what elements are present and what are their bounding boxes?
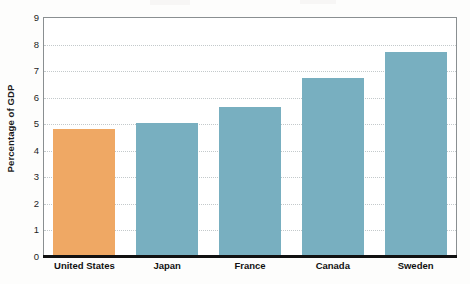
scan-artifact [150,0,190,5]
y-axis-tick-label: 9 [5,12,39,23]
bar-united-states [53,129,115,256]
y-axis-tick-label: 4 [5,144,39,155]
y-axis-tick-label: 5 [5,118,39,129]
bar-sweden [385,52,447,256]
category-label-france: France [209,260,292,271]
bars-group [43,17,457,256]
bar-canada [302,78,364,256]
bar-france [219,107,281,256]
scan-artifact [300,0,336,4]
y-axis-tick-label: 8 [5,38,39,49]
y-axis-tick-label: 7 [5,65,39,76]
x-axis-category-labels: United StatesJapanFranceCanadaSweden [43,260,457,282]
y-axis-tick-label: 0 [5,251,39,262]
y-axis-tick-labels: 0123456789 [0,0,39,284]
category-label-canada: Canada [291,260,374,271]
y-axis-tick-label: 2 [5,197,39,208]
category-label-japan: Japan [126,260,209,271]
y-axis-tick-label: 3 [5,171,39,182]
x-axis-baseline [43,255,457,258]
category-label-sweden: Sweden [374,260,457,271]
category-label-united-states: United States [43,260,126,271]
y-axis-tick-label: 1 [5,224,39,235]
bar-chart-figure: Percentage of GDP 0123456789 United Stat… [0,0,470,284]
bar-japan [136,123,198,256]
y-axis-tick-label: 6 [5,91,39,102]
